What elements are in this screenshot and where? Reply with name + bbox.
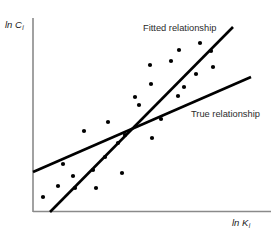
scatter-point bbox=[182, 85, 186, 89]
x-axis-label-subscript: i bbox=[249, 222, 250, 229]
scatter-point bbox=[94, 186, 98, 190]
scatter-points-group bbox=[41, 41, 215, 199]
scatter-point bbox=[198, 41, 202, 45]
fitted-relationship-label: Fitted relationship bbox=[143, 24, 216, 33]
true-relationship-label: True relationship bbox=[191, 110, 260, 119]
scatter-point bbox=[194, 72, 198, 76]
regression-lines-group bbox=[33, 27, 251, 212]
scatter-point bbox=[41, 195, 45, 199]
scatter-point bbox=[91, 168, 95, 172]
scatter-point bbox=[103, 155, 107, 159]
x-axis-label: ln Ki bbox=[232, 218, 250, 228]
scatter-point bbox=[137, 103, 141, 107]
scatter-point bbox=[150, 136, 154, 140]
scatter-point bbox=[123, 133, 127, 137]
scatter-point bbox=[82, 129, 86, 133]
x-axis-label-main: ln K bbox=[232, 217, 248, 228]
scatter-point bbox=[149, 82, 153, 86]
scatter-point bbox=[56, 184, 60, 188]
scatter-point bbox=[176, 94, 180, 98]
y-axis-label: ln Ci bbox=[5, 20, 23, 30]
scatter-point bbox=[177, 48, 181, 52]
scatter-point bbox=[133, 95, 137, 99]
scatter-point bbox=[211, 65, 215, 69]
scatter-point bbox=[116, 141, 120, 145]
scatter-point bbox=[148, 63, 152, 67]
scatter-point bbox=[120, 171, 124, 175]
scatter-point bbox=[106, 120, 110, 124]
regression-line-true-relationship bbox=[33, 77, 251, 172]
regression-figure: ln Ci ln Ki Fitted relationship True rel… bbox=[0, 0, 278, 234]
scatter-point bbox=[169, 59, 173, 63]
y-axis-label-main: ln C bbox=[5, 19, 22, 30]
regression-line-fitted-relationship bbox=[50, 27, 233, 212]
scatter-point bbox=[61, 162, 65, 166]
scatter-point bbox=[71, 174, 75, 178]
scatter-point bbox=[73, 186, 77, 190]
scatter-point bbox=[159, 117, 163, 121]
y-axis-label-subscript: i bbox=[22, 24, 23, 31]
scatter-point bbox=[209, 49, 213, 53]
